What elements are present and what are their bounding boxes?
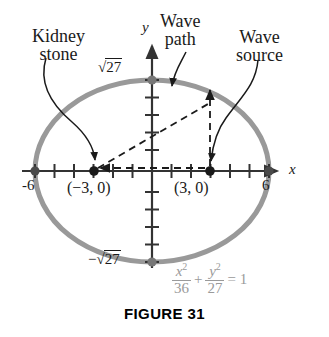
minus-sign: − <box>88 251 96 267</box>
y-term-denominator: 27 <box>205 280 224 297</box>
vertex-left-marker <box>30 166 39 175</box>
x-tick-label-neg6: -6 <box>22 178 35 193</box>
wave-source-label-line1: Wave <box>236 28 283 46</box>
point-label-focus-left: (−3, 0) <box>67 180 111 196</box>
x-term-fraction: x2 36 <box>172 262 191 297</box>
y-axis-label: y <box>142 20 149 35</box>
kidney-stone-label-line1: Kidney <box>32 27 85 45</box>
covertex-bottom-marker <box>147 257 156 266</box>
x-exponent: 2 <box>182 261 187 272</box>
covertex-top-marker <box>147 75 156 84</box>
focus-right-dot <box>205 166 215 176</box>
y-exponent: 2 <box>216 261 221 272</box>
wave-source-label: Wave source <box>236 28 283 65</box>
plus-sign: + <box>194 271 202 288</box>
point-label-focus-right: (3, 0) <box>174 180 209 196</box>
wave-path-label: Wave path <box>160 12 201 49</box>
wave-source-label-line2: source <box>236 46 283 64</box>
x-term-denominator: 36 <box>172 280 191 297</box>
wave-path-label-line2: path <box>160 30 201 48</box>
x-tick-label-6: 6 <box>262 178 270 193</box>
kidney-stone-label: Kidney stone <box>32 27 85 64</box>
vertex-right-marker <box>264 166 273 175</box>
equals-one: = 1 <box>227 271 247 288</box>
radicand-value: 27 <box>104 250 121 267</box>
y-term-fraction: y2 27 <box>205 262 224 297</box>
y-variable: y <box>209 263 216 279</box>
y-tick-label-neg-sqrt27: −√27 <box>88 252 121 267</box>
y-term-numerator: y2 <box>207 262 223 280</box>
focus-left-dot <box>89 166 99 176</box>
x-term-numerator: x2 <box>174 262 190 280</box>
wave-path-label-line1: Wave <box>160 12 201 30</box>
wave-source-leader-arrow <box>211 60 258 161</box>
kidney-stone-label-line2: stone <box>32 45 85 63</box>
figure-caption: FIGURE 31 <box>0 305 329 322</box>
y-tick-label-sqrt27: √27 <box>98 60 122 75</box>
x-axis-label: x <box>289 162 296 177</box>
radicand-value: 27 <box>105 58 122 75</box>
ellipse-equation: x2 36 + y2 27 = 1 <box>172 262 247 297</box>
